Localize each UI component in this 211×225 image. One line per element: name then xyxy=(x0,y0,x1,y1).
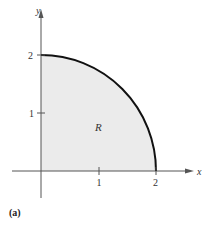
region-r-fill xyxy=(41,55,156,171)
figure-caption: (a) xyxy=(9,207,21,219)
y-tick-label-2: 2 xyxy=(28,50,33,61)
x-tick-label-2: 2 xyxy=(153,177,158,188)
x-axis-arrow-icon xyxy=(185,169,194,174)
x-tick-label-1: 1 xyxy=(97,177,102,188)
x-axis-label: x xyxy=(196,166,202,177)
y-axis-label: y xyxy=(35,5,41,16)
y-tick-label-1: 1 xyxy=(29,108,34,119)
region-label: R xyxy=(94,121,102,133)
quarter-circle-diagram: y x 2 1 1 2 R (a) xyxy=(0,0,211,225)
